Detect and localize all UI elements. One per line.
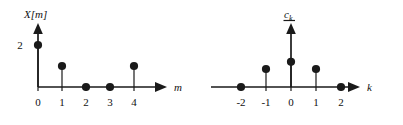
left-stem-group <box>34 41 138 91</box>
stem-data-point <box>312 65 320 73</box>
right-x-tick-label-group: -2-1012 <box>236 87 343 108</box>
right-stem-plot: ck k -2-1012 <box>200 0 403 125</box>
right-stem-group <box>237 58 345 91</box>
right-x-axis-label: k <box>367 81 373 93</box>
x-axis-arrowhead-icon <box>348 82 360 92</box>
x-tick-label: 2 <box>338 96 344 108</box>
right-y-axis-label-subscript: k <box>289 14 293 23</box>
stem-data-point <box>262 65 270 73</box>
left-stem-plot: X[m] 2 m 01234 <box>0 0 200 125</box>
left-x-axis-label: m <box>174 81 182 93</box>
x-tick-label: 0 <box>35 96 41 108</box>
y-axis-arrowhead-icon <box>286 23 296 34</box>
x-tick-label: -1 <box>261 96 270 108</box>
x-tick-label: 0 <box>288 96 294 108</box>
left-x-tick-label-group: 01234 <box>35 87 137 108</box>
x-tick-label: 4 <box>131 96 137 108</box>
x-axis-arrowhead-icon <box>155 82 167 92</box>
stem-data-point <box>287 58 295 66</box>
stem-data-point <box>130 62 138 70</box>
y-axis-arrowhead-icon <box>33 23 43 34</box>
left-y-axis-label: X[m] <box>23 8 47 20</box>
stem-data-point <box>58 62 66 70</box>
x-tick-label: 3 <box>107 96 113 108</box>
x-tick-label: 1 <box>313 96 319 108</box>
stem-plot-figure: X[m] 2 m 01234 ck k -2-1012 <box>0 0 403 125</box>
x-tick-label: 2 <box>83 96 89 108</box>
x-tick-label: -2 <box>236 96 245 108</box>
left-y-value-label: 2 <box>17 39 23 51</box>
x-tick-label: 1 <box>59 96 65 108</box>
stem-data-point <box>34 41 42 49</box>
